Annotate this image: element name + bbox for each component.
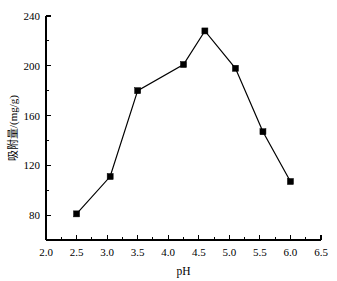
data-point-marker (74, 211, 80, 217)
x-axis-title: pH (176, 265, 190, 278)
data-point-marker (202, 28, 208, 34)
x-tick-label-6: 6.0 (284, 246, 298, 258)
y-tick-label-160: 160 (24, 110, 41, 122)
x-tick-label-2: 2.0 (39, 246, 53, 258)
data-point-marker (232, 65, 238, 71)
x-tick-label-4: 4.0 (161, 246, 175, 258)
line-chart: 80120160200240 2.02.53.03.54.04.55.05.56… (0, 0, 337, 281)
x-tick-label-5.5: 5.5 (253, 246, 267, 258)
y-axis-title-label: 吸附量/(mg/g) (6, 95, 20, 161)
x-tick-label-5: 5.0 (222, 246, 236, 258)
y-tick-label-240: 240 (24, 10, 41, 22)
data-point-marker (287, 179, 293, 185)
data-point-marker (181, 62, 187, 68)
x-tick-label-3: 3.0 (100, 246, 114, 258)
x-tick-label-2.5: 2.5 (70, 246, 84, 258)
y-axis-title: 吸附量/(mg/g) (6, 95, 20, 161)
data-point-marker (107, 174, 113, 180)
data-point-marker (260, 129, 266, 135)
x-tick-label-4.5: 4.5 (192, 246, 206, 258)
y-tick-label-200: 200 (24, 60, 41, 72)
y-tick-label-80: 80 (29, 209, 41, 221)
data-point-marker (135, 88, 141, 94)
y-tick-label-120: 120 (24, 159, 41, 171)
x-tick-label-3.5: 3.5 (131, 246, 145, 258)
chart-figure: 80120160200240 2.02.53.03.54.04.55.05.56… (0, 0, 337, 281)
x-tick-label-6.5: 6.5 (314, 246, 328, 258)
